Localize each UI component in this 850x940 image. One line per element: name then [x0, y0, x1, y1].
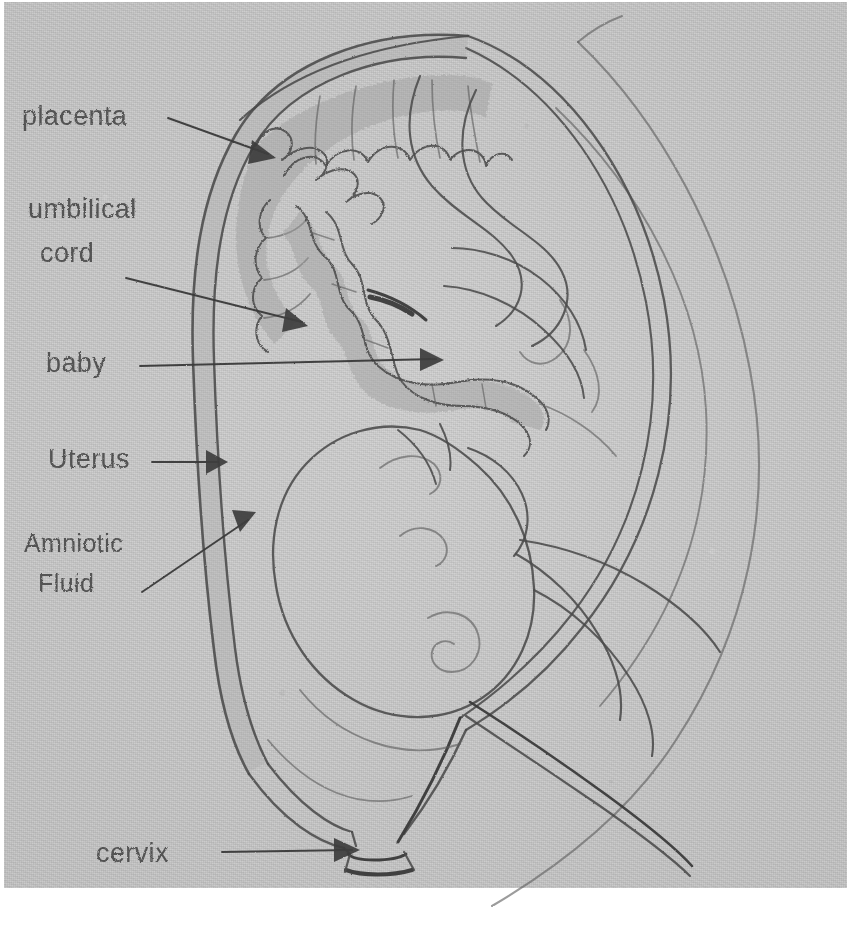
label-amniotic-line2: Fluid: [38, 569, 94, 597]
abdomen-contours: [460, 16, 759, 906]
uterus-lower-segment: [249, 718, 466, 848]
label-umbilical-line2: cord: [40, 238, 94, 268]
labels-group: placenta umbilical cord baby Uterus Amni…: [22, 101, 169, 868]
umbilical-cord: [282, 206, 549, 456]
label-baby: baby: [46, 348, 106, 378]
pencil-diagram: placenta umbilical cord baby Uterus Amni…: [0, 0, 850, 940]
label-cervix: cervix: [96, 838, 169, 868]
label-uterus: Uterus: [48, 444, 130, 474]
label-umbilical-line1: umbilical: [28, 194, 137, 224]
label-amniotic-line1: Amniotic: [24, 529, 123, 557]
label-placenta: placenta: [22, 101, 128, 131]
cervix-structure: [344, 832, 414, 875]
screenshot-root: placenta umbilical cord baby Uterus Amni…: [0, 0, 850, 940]
leader-lines: [126, 118, 444, 862]
